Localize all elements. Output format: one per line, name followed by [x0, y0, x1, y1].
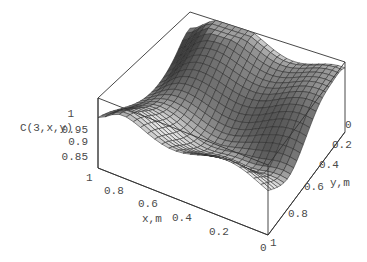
x-axis: 1 0.8 0.6 0.4 0.2 0 x,m [86, 172, 267, 254]
y-axis-label: y,m [330, 177, 350, 189]
z-tick-0.85: 0.85 [62, 151, 88, 163]
x-tick-0.6: 0.6 [138, 198, 158, 210]
x-tick-0.8: 0.8 [104, 185, 124, 197]
y-tick-0: 0 [345, 119, 352, 131]
x-tick-0: 0 [260, 242, 267, 254]
surface-plot: 1 0.95 0.9 0.85 C(3,x,y) 1 0.8 0.6 0.4 0… [0, 0, 367, 262]
x-tick-0.4: 0.4 [172, 212, 192, 224]
surface-mesh [98, 20, 345, 190]
y-tick-0.8: 0.8 [288, 208, 308, 220]
x-tick-1: 1 [86, 172, 93, 184]
z-axis: 1 0.95 0.9 0.85 C(3,x,y) [20, 108, 88, 163]
x-tick-0.2: 0.2 [209, 226, 229, 238]
y-tick-0.6: 0.6 [304, 181, 324, 193]
z-tick-1: 1 [67, 108, 74, 120]
y-tick-0.4: 0.4 [319, 159, 339, 171]
z-axis-label: C(3,x,y) [20, 122, 73, 134]
z-tick-0.9: 0.9 [68, 136, 88, 148]
y-tick-0.2: 0.2 [332, 139, 352, 151]
x-axis-label: x,m [142, 213, 162, 225]
y-tick-1: 1 [270, 237, 277, 249]
